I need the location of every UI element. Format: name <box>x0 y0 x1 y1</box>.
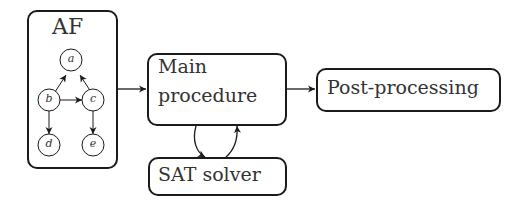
node-label-b: b <box>39 92 59 105</box>
af-title: AF <box>52 14 83 39</box>
node-label-c: c <box>83 92 103 105</box>
sat-solver-label: SAT solver <box>158 163 261 185</box>
node-label-d: d <box>39 137 59 150</box>
node-label-a: a <box>61 52 81 65</box>
post-processing-label: Post-processing <box>327 76 479 98</box>
arrow-main-to-sat <box>194 126 205 157</box>
main-procedure-line1: Main <box>158 55 207 77</box>
node-label-e: e <box>83 137 103 150</box>
main-procedure-line2: procedure <box>158 84 257 106</box>
arrow-sat-to-main <box>226 126 237 157</box>
